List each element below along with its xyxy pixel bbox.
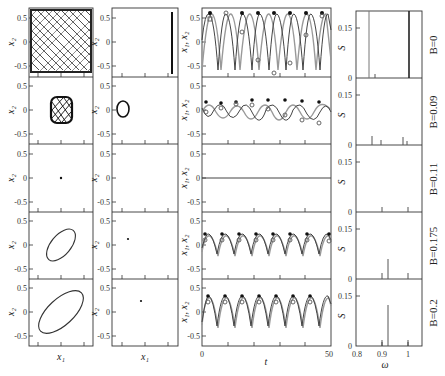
svg-text:S: S [336, 46, 347, 51]
svg-text:0: 0 [348, 275, 352, 284]
svg-text:0.5: 0.5 [17, 284, 27, 293]
svg-text:0.5: 0.5 [100, 284, 110, 293]
svg-text:B=0.09: B=0.09 [427, 95, 439, 128]
svg-text:50: 50 [325, 350, 333, 359]
svg-text:-0.5: -0.5 [14, 62, 27, 71]
svg-text:x₁, x₂: x₁, x₂ [178, 99, 189, 121]
svg-text:x₁, x₂: x₁, x₂ [178, 301, 189, 323]
svg-text:0.15: 0.15 [338, 158, 352, 167]
svg-text:-0.5: -0.5 [14, 130, 27, 139]
svg-text:0: 0 [196, 106, 200, 115]
svg-text:0.5: 0.5 [17, 217, 27, 226]
phase-portrait-b009 [51, 97, 72, 123]
svg-text:0.9: 0.9 [377, 350, 387, 359]
svg-text:B=0.11: B=0.11 [427, 163, 439, 195]
svg-text:0.15: 0.15 [338, 292, 352, 301]
svg-text:x₁: x₁ [140, 351, 149, 362]
svg-text:ω: ω [381, 359, 388, 370]
omega-ticks [382, 342, 408, 346]
svg-text:0: 0 [106, 174, 110, 183]
fixed-point-b011 [60, 177, 62, 179]
svg-text:0: 0 [106, 308, 110, 317]
svg-text:0.15: 0.15 [338, 24, 352, 33]
svg-text:0.5: 0.5 [190, 150, 200, 159]
svg-text:-0.5: -0.5 [187, 198, 200, 207]
svg-text:0: 0 [196, 241, 200, 250]
svg-text:0.15: 0.15 [338, 225, 352, 234]
y-axis-labels: x₂ x₂ x₂ x₂ x₂ x₂ x₂ x₂ x₂ x₂ x₁, x₂ x₁,… [5, 31, 347, 323]
svg-text:S: S [336, 247, 347, 252]
svg-text:-0.5: -0.5 [187, 332, 200, 341]
limit-cycle-b0175 [41, 224, 81, 266]
svg-text:0.5: 0.5 [190, 284, 200, 293]
svg-text:S: S [336, 314, 347, 319]
svg-text:0: 0 [23, 38, 27, 47]
svg-text:0.5: 0.5 [100, 14, 110, 23]
svg-text:-0.5: -0.5 [97, 198, 110, 207]
svg-text:-0.5: -0.5 [187, 62, 200, 71]
svg-text:t: t [265, 356, 268, 367]
svg-text:x₂: x₂ [5, 174, 16, 183]
svg-text:S: S [336, 113, 347, 118]
svg-text:0: 0 [23, 308, 27, 317]
svg-text:x₂: x₂ [88, 38, 99, 47]
svg-text:0: 0 [23, 241, 27, 250]
svg-text:-0.5: -0.5 [187, 265, 200, 274]
phase-portrait-b0 [31, 10, 91, 72]
svg-text:B=0.2: B=0.2 [427, 299, 439, 326]
svg-text:0.5: 0.5 [190, 14, 200, 23]
svg-text:0.5: 0.5 [100, 82, 110, 91]
poincare-point-b02 [140, 300, 142, 302]
svg-text:-0.5: -0.5 [97, 62, 110, 71]
svg-text:0: 0 [348, 74, 352, 83]
svg-text:0: 0 [196, 308, 200, 317]
svg-text:0.5: 0.5 [100, 150, 110, 159]
time-series [202, 14, 331, 328]
svg-text:0: 0 [196, 38, 200, 47]
svg-text:x₂: x₂ [5, 106, 16, 115]
svg-text:0: 0 [23, 174, 27, 183]
svg-text:0: 0 [200, 350, 204, 359]
poincare-circle-b009 [117, 101, 129, 117]
svg-text:0: 0 [23, 106, 27, 115]
svg-text:0: 0 [196, 174, 200, 183]
svg-text:1: 1 [406, 350, 410, 359]
svg-text:x₂: x₂ [88, 241, 99, 250]
svg-text:x₂: x₂ [88, 308, 99, 317]
poincare-point-b0175 [127, 238, 129, 240]
svg-text:x₂: x₂ [88, 174, 99, 183]
svg-text:x₁: x₁ [56, 351, 65, 362]
svg-text:0.5: 0.5 [190, 82, 200, 91]
svg-text:0.5: 0.5 [17, 150, 27, 159]
svg-text:0: 0 [348, 208, 352, 217]
svg-text:0: 0 [348, 141, 352, 150]
svg-text:-0.5: -0.5 [187, 130, 200, 139]
poincare-line-b0 [171, 12, 173, 74]
svg-text:S: S [336, 180, 347, 185]
svg-text:x₂: x₂ [5, 308, 16, 317]
svg-text:0: 0 [106, 241, 110, 250]
svg-text:B=0.175: B=0.175 [427, 226, 439, 265]
svg-text:0.8: 0.8 [352, 350, 362, 359]
svg-text:0.15: 0.15 [338, 91, 352, 100]
row-labels: B=0 B=0.09 B=0.11 B=0.175 B=0.2 [427, 35, 439, 327]
svg-text:0: 0 [106, 106, 110, 115]
svg-text:x₂: x₂ [5, 241, 16, 250]
svg-text:-0.5: -0.5 [97, 130, 110, 139]
svg-text:0.5: 0.5 [100, 217, 110, 226]
limit-cycle-b02 [32, 283, 91, 340]
svg-text:x₁, x₂: x₁, x₂ [178, 31, 189, 53]
svg-text:0.5: 0.5 [17, 14, 27, 23]
spectra-peaks [369, 11, 409, 346]
svg-text:0.5: 0.5 [17, 82, 27, 91]
figure: 0.50-0.5 0.50-0.5 0.50-0.5 0.50-0.5 0.50… [0, 0, 445, 376]
svg-text:0: 0 [106, 38, 110, 47]
svg-text:-0.5: -0.5 [97, 332, 110, 341]
svg-text:B=0: B=0 [427, 35, 439, 55]
svg-text:-0.5: -0.5 [97, 265, 110, 274]
svg-text:-0.5: -0.5 [14, 265, 27, 274]
svg-text:-0.5: -0.5 [14, 198, 27, 207]
svg-text:x₂: x₂ [5, 38, 16, 47]
svg-text:0.5: 0.5 [190, 217, 200, 226]
svg-text:-0.5: -0.5 [14, 332, 27, 341]
